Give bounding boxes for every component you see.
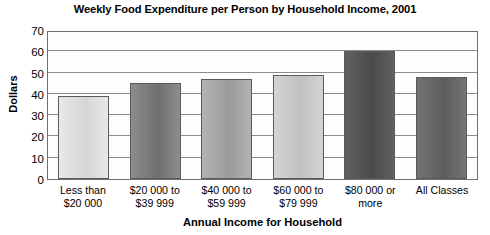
y-tick-label: 40 [14,89,44,101]
x-tick-label: $60 000 to$79 999 [262,184,334,209]
y-tick-label: 60 [14,46,44,58]
x-tick-label-line: $79 999 [262,197,334,210]
x-tick-label-line: more [334,197,406,210]
y-axis-tick-labels: 706050403020100 [14,24,44,186]
x-tick-label-line: $59 999 [191,197,263,210]
x-tick-label: $20 000 to$39 999 [119,184,191,209]
x-tick-label-line: $20 000 [47,197,119,210]
y-tick-label: 20 [14,131,44,143]
y-tick-label: 30 [14,110,44,122]
bar [273,75,324,179]
chart-title: Weekly Food Expenditure per Person by Ho… [0,2,490,16]
bar [58,96,109,179]
y-tick-label: 0 [14,174,44,186]
x-axis-tick-labels: Less than$20 000$20 000 to$39 999$40 000… [47,184,478,216]
bars-group [48,32,477,179]
y-tick-label: 70 [14,25,44,37]
x-tick-label-line: $20 000 to [119,184,191,197]
x-tick-label-line: $80 000 or [334,184,406,197]
bar [344,51,395,179]
y-tick-label: 50 [14,68,44,80]
y-tick-label: 10 [14,153,44,165]
x-tick-label: $40 000 to$59 999 [191,184,263,209]
x-tick-label-line: $39 999 [119,197,191,210]
x-tick-label-line: $40 000 to [191,184,263,197]
x-tick-label-line: $60 000 to [262,184,334,197]
x-tick-label: All Classes [406,184,478,197]
x-axis-title: Annual Income for Household [47,216,478,228]
bar [201,79,252,179]
x-tick-label-line: All Classes [406,184,478,197]
bar [416,77,467,179]
x-tick-label: $80 000 ormore [334,184,406,209]
bar-chart: Weekly Food Expenditure per Person by Ho… [0,0,490,235]
x-tick-label-line: Less than [47,184,119,197]
plot-area [47,31,478,180]
x-tick-label: Less than$20 000 [47,184,119,209]
bar [130,83,181,179]
